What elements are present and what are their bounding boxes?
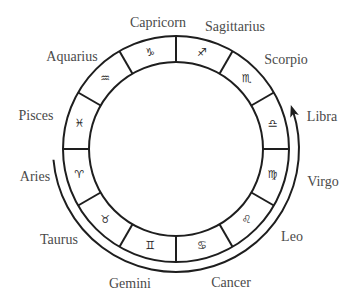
outer-ring-circle bbox=[63, 36, 289, 262]
segment-divider bbox=[251, 93, 274, 106]
pisces-symbol-icon: ♓ bbox=[74, 117, 84, 130]
segment-divider bbox=[120, 224, 133, 247]
taurus-symbol-icon: ♉ bbox=[100, 213, 110, 226]
segment-dividers bbox=[63, 36, 289, 262]
sign-label-sagittarius: Sagittarius bbox=[205, 20, 265, 34]
aquarius-symbol-icon: ♒ bbox=[100, 72, 110, 85]
sign-label-capricorn: Capricorn bbox=[130, 16, 186, 30]
sign-label-virgo: Virgo bbox=[307, 175, 339, 189]
sign-label-scorpio: Scorpio bbox=[264, 53, 308, 67]
segment-divider bbox=[78, 193, 101, 206]
scorpio-symbol-icon: ♏ bbox=[242, 72, 252, 85]
libra-symbol-icon: ♎ bbox=[268, 117, 278, 130]
zodiac-symbols: ♑♐♏♎♍♌♋♊♉♈♓♒ bbox=[74, 46, 277, 252]
sign-label-leo: Leo bbox=[281, 230, 303, 244]
sagittarius-symbol-icon: ♐ bbox=[197, 46, 207, 59]
segment-divider bbox=[220, 51, 233, 74]
segment-divider bbox=[78, 93, 101, 106]
zodiac-ring bbox=[63, 36, 289, 262]
aries-symbol-icon: ♈ bbox=[74, 168, 84, 181]
zodiac-wheel: ♑♐♏♎♍♌♋♊♉♈♓♒ bbox=[0, 0, 356, 302]
capricorn-symbol-icon: ♑ bbox=[145, 46, 155, 59]
sign-label-gemini: Gemini bbox=[109, 277, 151, 291]
sign-label-aries: Aries bbox=[20, 170, 50, 184]
virgo-symbol-icon: ♍ bbox=[268, 168, 278, 181]
segment-divider bbox=[220, 224, 233, 247]
sign-label-libra: Libra bbox=[307, 110, 337, 124]
sign-label-cancer: Cancer bbox=[211, 276, 251, 290]
cancer-symbol-icon: ♋ bbox=[197, 239, 207, 252]
sign-label-pisces: Pisces bbox=[19, 109, 54, 123]
gemini-symbol-icon: ♊ bbox=[145, 239, 155, 252]
inner-ring-circle bbox=[89, 62, 263, 236]
sign-label-taurus: Taurus bbox=[40, 233, 78, 247]
leo-symbol-icon: ♌ bbox=[242, 213, 252, 226]
segment-divider bbox=[120, 51, 133, 74]
segment-divider bbox=[251, 193, 274, 206]
sign-label-aquarius: Aquarius bbox=[46, 50, 97, 64]
